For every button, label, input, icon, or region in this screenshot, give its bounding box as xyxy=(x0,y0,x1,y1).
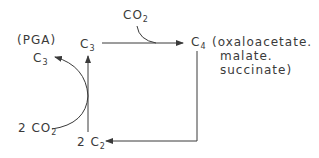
c3-center-node: C3 xyxy=(80,37,94,56)
co2-input-curve xyxy=(137,26,156,43)
pga-label: (PGA) xyxy=(17,33,56,47)
c3-center-sub: 3 xyxy=(89,44,94,53)
co2-top-node: CO2 xyxy=(123,8,148,27)
c3-center-base: C xyxy=(80,37,89,51)
c3-pga-node: C3 xyxy=(33,51,47,70)
c4-node: C4 xyxy=(191,35,205,54)
co2-top-base: CO xyxy=(123,8,143,22)
two-co2-node: 2 CO2 xyxy=(18,121,56,140)
arrow-c4-to-2c2 xyxy=(106,51,197,141)
two-c2-sub: 2 xyxy=(100,142,105,151)
c3-pga-sub: 3 xyxy=(42,58,47,67)
two-co2-sub: 2 xyxy=(51,128,56,137)
c4-sub: 4 xyxy=(200,42,205,51)
two-c2-node: 2 C2 xyxy=(77,135,105,154)
c4-base: C xyxy=(191,35,200,49)
c4-product-3: succinate) xyxy=(220,63,292,77)
two-c2-base: 2 C xyxy=(77,135,100,149)
two-co2-base: 2 CO xyxy=(18,121,51,135)
arrow-2co2-to-pga xyxy=(52,57,88,129)
co2-top-sub: 2 xyxy=(143,15,148,24)
c4-product-1: (oxaloacetate. xyxy=(212,35,312,49)
c3-pga-base: C xyxy=(33,51,42,65)
c4-product-2: malate. xyxy=(220,49,273,63)
